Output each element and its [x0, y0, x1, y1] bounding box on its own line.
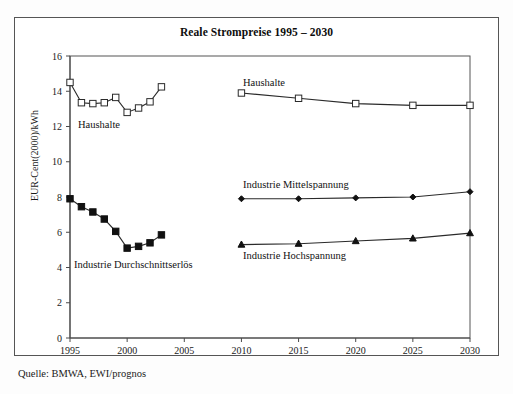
series-3	[238, 189, 473, 202]
annotation-haushalte-historical: Haushalte	[78, 119, 120, 130]
data-point-marker	[158, 232, 164, 238]
y-tick-label: 16	[52, 51, 62, 62]
data-point-marker	[113, 94, 119, 100]
series-4	[238, 230, 473, 248]
series-1	[67, 196, 165, 252]
source-note: Quelle: BMWA, EWI/prognos	[18, 368, 146, 379]
data-point-marker	[147, 240, 153, 246]
data-point-marker	[124, 109, 130, 115]
annotation-industrie-mittelspannung: Industrie Mittelspannung	[243, 179, 350, 190]
annotation-industrie-durchschnittserloes: Industrie Durchschnittserlös	[74, 259, 193, 270]
data-point-marker	[353, 100, 359, 106]
data-point-marker	[124, 245, 130, 251]
x-tick-label: 2025	[403, 345, 423, 356]
data-point-marker	[135, 243, 141, 249]
x-tick-label: 2015	[289, 345, 309, 356]
data-point-marker	[467, 230, 474, 236]
annotation-haushalte-forecast: Haushalte	[243, 77, 285, 88]
data-point-marker	[158, 84, 164, 90]
data-point-marker	[78, 203, 84, 209]
data-point-marker	[101, 216, 107, 222]
data-point-marker	[113, 228, 119, 234]
data-point-marker	[90, 100, 96, 106]
y-tick-label: 2	[57, 297, 62, 308]
x-tick-label: 2000	[117, 345, 137, 356]
data-point-marker	[410, 102, 416, 108]
data-point-marker	[238, 196, 244, 202]
annotation-industrie-hochspannung: Industrie Hochspannung	[243, 250, 347, 261]
data-point-marker	[295, 95, 301, 101]
data-point-marker	[353, 195, 359, 201]
y-tick-label: 14	[52, 86, 62, 97]
data-point-marker	[101, 100, 107, 106]
x-tick-label: 1995	[60, 345, 80, 356]
data-point-marker	[90, 209, 96, 215]
data-point-marker	[410, 194, 416, 200]
data-point-marker	[238, 90, 244, 96]
y-tick-label: 12	[52, 121, 62, 132]
data-point-marker	[67, 79, 73, 85]
y-tick-label: 8	[57, 192, 62, 203]
data-point-marker	[67, 196, 73, 202]
annotation-layer: HaushalteIndustrie DurchschnittserlösHau…	[74, 77, 350, 270]
data-point-marker	[135, 105, 141, 111]
data-point-marker	[467, 189, 473, 195]
series-2	[238, 90, 473, 109]
plot-area: 0246810121416199520002005201020152020202…	[0, 0, 513, 394]
y-tick-label: 10	[52, 156, 62, 167]
data-point-marker	[467, 102, 473, 108]
x-tick-label: 2030	[460, 345, 480, 356]
y-tick-label: 0	[57, 333, 62, 344]
x-tick-label: 2005	[174, 345, 194, 356]
series-layer	[67, 79, 474, 251]
x-tick-label: 2010	[231, 345, 251, 356]
data-point-marker	[296, 196, 302, 202]
y-tick-label: 4	[57, 262, 62, 273]
data-point-marker	[147, 99, 153, 105]
y-tick-label: 6	[57, 227, 62, 238]
data-point-marker	[78, 100, 84, 106]
x-tick-label: 2020	[346, 345, 366, 356]
series-0	[67, 79, 165, 115]
chart-figure: Reale Strompreise 1995 – 2030 EUR-Cent(2…	[0, 0, 513, 394]
